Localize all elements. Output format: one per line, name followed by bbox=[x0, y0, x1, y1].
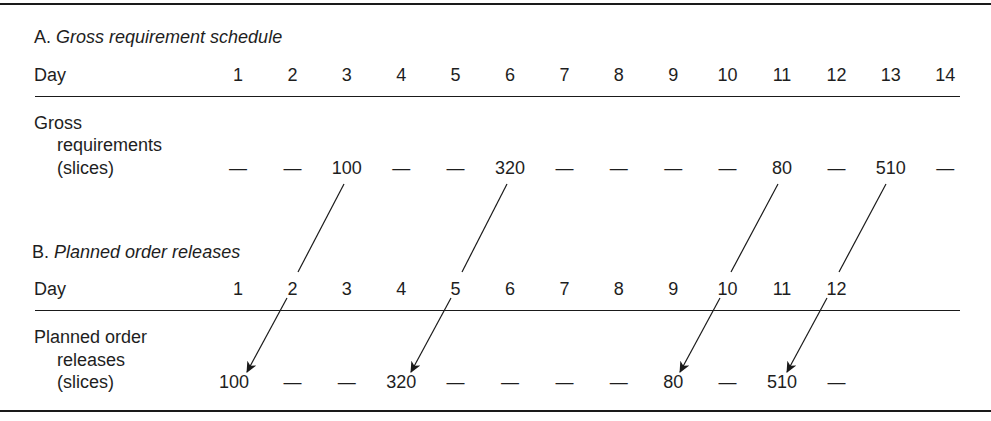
arrow-510-icon bbox=[787, 184, 886, 372]
arrow-320-icon bbox=[411, 184, 507, 372]
arrow-100-icon bbox=[247, 184, 344, 372]
offset-arrows bbox=[0, 0, 991, 421]
arrow-80-icon bbox=[680, 184, 778, 372]
